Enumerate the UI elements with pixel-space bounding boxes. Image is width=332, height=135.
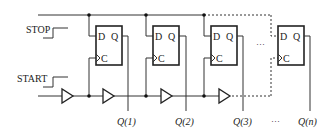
buffer-icon: [219, 89, 230, 103]
junction-dot: [202, 13, 206, 17]
svg-text:C: C: [101, 53, 108, 64]
svg-text:Q: Q: [111, 31, 119, 42]
output-label-q2: Q(2): [175, 116, 195, 128]
svg-text:D: D: [213, 31, 220, 42]
output-label-q1: Q(1): [117, 116, 137, 128]
junction-dot: [202, 94, 206, 98]
buffer-icon: [161, 89, 172, 103]
ellipsis: ···: [256, 39, 265, 49]
buffer-icon: [62, 89, 73, 103]
svg-text:Q: Q: [226, 31, 234, 42]
stop-label: STOP: [26, 24, 51, 35]
junction-dot: [144, 94, 148, 98]
svg-text:Q: Q: [293, 31, 301, 42]
ellipsis-bottom: ···: [271, 116, 280, 126]
output-label-q3: Q(3): [233, 116, 253, 128]
junction-dot: [87, 94, 91, 98]
delay-line-tdc-diagram: STOP START D Q C D Q C: [0, 0, 332, 135]
svg-text:D: D: [98, 31, 105, 42]
flip-flop-n: D Q C: [271, 15, 310, 111]
svg-text:D: D: [155, 31, 162, 42]
start-label: START: [17, 73, 47, 84]
buffer-icon: [103, 89, 114, 103]
output-label-qn: Q(n): [298, 116, 318, 128]
junction-dot: [87, 13, 91, 17]
svg-text:C: C: [158, 53, 165, 64]
svg-text:D: D: [280, 31, 287, 42]
svg-text:Q: Q: [168, 31, 176, 42]
junction-dot: [144, 13, 148, 17]
svg-text:C: C: [216, 53, 223, 64]
svg-text:C: C: [283, 53, 290, 64]
